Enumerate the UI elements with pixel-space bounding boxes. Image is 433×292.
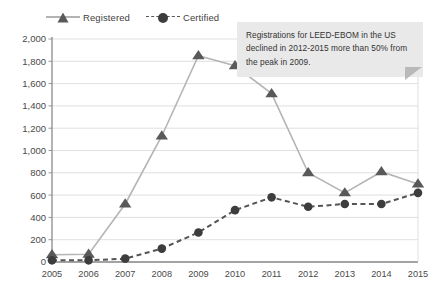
x-tick-label: 2009 bbox=[188, 269, 208, 279]
y-tick-label: 1,200 bbox=[22, 123, 46, 134]
series-line-registered bbox=[52, 56, 418, 255]
y-tick-label: 2,000 bbox=[22, 33, 46, 44]
data-point-certified-2008[interactable] bbox=[158, 244, 167, 253]
data-point-certified-2006[interactable] bbox=[84, 256, 93, 265]
x-tick-label: 2011 bbox=[262, 269, 282, 279]
y-tick-label: 600 bbox=[30, 190, 46, 201]
y-tick-label: 0 bbox=[41, 256, 46, 267]
x-tick-label: 2013 bbox=[335, 269, 355, 279]
data-point-certified-2009[interactable] bbox=[194, 228, 203, 237]
x-tick-label: 2005 bbox=[42, 269, 62, 279]
data-point-certified-2011[interactable] bbox=[267, 193, 276, 202]
data-point-certified-2005[interactable] bbox=[48, 256, 57, 265]
data-point-certified-2014[interactable] bbox=[377, 200, 386, 209]
data-point-registered-2012[interactable] bbox=[302, 167, 314, 176]
data-point-certified-2015[interactable] bbox=[414, 189, 423, 198]
data-point-registered-2014[interactable] bbox=[375, 166, 387, 175]
x-tick-label: 2014 bbox=[371, 269, 391, 279]
y-tick-label: 200 bbox=[30, 234, 46, 245]
callout-tail-icon bbox=[405, 67, 422, 80]
data-point-certified-2010[interactable] bbox=[231, 206, 240, 215]
data-point-certified-2007[interactable] bbox=[121, 254, 130, 263]
y-tick-label: 1,800 bbox=[22, 56, 46, 67]
leed-ebom-line-chart: Registered Certified 02004006008001,0001… bbox=[0, 0, 433, 292]
x-tick-label: 2010 bbox=[225, 269, 245, 279]
y-tick-label: 1,400 bbox=[22, 100, 46, 111]
data-point-registered-2009[interactable] bbox=[192, 50, 204, 59]
x-tick-label: 2008 bbox=[152, 269, 172, 279]
data-point-registered-2007[interactable] bbox=[119, 198, 131, 207]
data-point-certified-2012[interactable] bbox=[304, 203, 313, 212]
x-tick-label: 2007 bbox=[115, 269, 135, 279]
y-tick-label: 800 bbox=[30, 167, 46, 178]
x-tick-label: 2006 bbox=[78, 269, 98, 279]
x-tick-label: 2012 bbox=[298, 269, 318, 279]
y-tick-label: 1,000 bbox=[22, 145, 46, 156]
data-point-certified-2013[interactable] bbox=[341, 200, 350, 209]
data-point-registered-2013[interactable] bbox=[339, 187, 351, 196]
data-point-registered-2008[interactable] bbox=[156, 130, 168, 139]
y-tick-label: 400 bbox=[30, 212, 46, 223]
callout-annotation: Registrations for LEED-EBOM in the US de… bbox=[237, 22, 423, 77]
series-line-certified bbox=[52, 193, 418, 260]
y-tick-label: 1,600 bbox=[22, 78, 46, 89]
x-tick-label: 2015 bbox=[408, 269, 428, 279]
